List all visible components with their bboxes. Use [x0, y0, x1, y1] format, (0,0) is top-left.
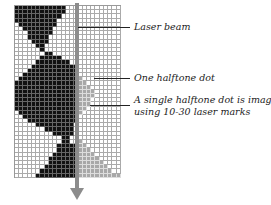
one-dot-label: One halftone dot — [134, 72, 215, 83]
laser-beam-line — [75, 3, 79, 191]
single-dot-label-line2: using 10-30 laser marks — [134, 106, 250, 117]
one-dot-leader — [94, 78, 130, 79]
laser-beam-leader — [78, 27, 130, 28]
single-dot-leader — [90, 105, 130, 106]
laser-beam-label: Laser beam — [134, 21, 190, 32]
single-dot-label-line1: A single halftone dot is imaged — [134, 94, 271, 105]
grid-cell — [117, 174, 121, 178]
arrow-down-icon — [70, 188, 84, 200]
halftone-grid — [14, 5, 121, 178]
